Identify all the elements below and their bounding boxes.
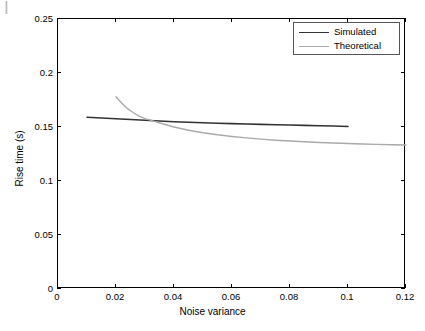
y-tick-label: 0.25 [35, 13, 54, 24]
x-tick-label: 0.04 [164, 291, 183, 302]
x-tick-label: 0 [54, 291, 59, 302]
legend-item-simulated[interactable]: Simulated [294, 25, 399, 39]
y-tick-mark-right [401, 18, 405, 19]
x-axis-title: Noise variance [0, 306, 425, 317]
legend-line-swatch-theoretical [299, 46, 329, 47]
x-tick-label: 0.12 [396, 291, 415, 302]
y-tick-mark-right [401, 126, 405, 127]
chart-legend[interactable]: Simulated Theoretical [293, 22, 400, 55]
x-tick-mark [289, 284, 290, 288]
y-tick-mark [57, 18, 61, 19]
y-tick-label: 0.15 [35, 121, 54, 132]
legend-label-simulated: Simulated [334, 27, 376, 37]
x-tick-mark-top [289, 18, 290, 22]
y-tick-mark [57, 288, 61, 289]
x-tick-mark-top [173, 18, 174, 22]
x-tick-label: 0.1 [340, 291, 353, 302]
x-tick-mark [405, 284, 406, 288]
y-tick-mark-right [401, 180, 405, 181]
y-tick-label: 0.1 [40, 175, 53, 186]
x-tick-mark [231, 284, 232, 288]
y-tick-mark [57, 234, 61, 235]
x-tick-mark [173, 284, 174, 288]
y-tick-mark [57, 72, 61, 73]
y-axis-title: Rise time (s) [14, 99, 25, 219]
series-lines [58, 19, 406, 289]
y-tick-label: 0.2 [40, 67, 53, 78]
plot-area [57, 18, 405, 288]
y-tick-mark-right [401, 72, 405, 73]
x-tick-label: 0.08 [280, 291, 299, 302]
x-tick-mark-top [231, 18, 232, 22]
x-tick-label: 0.02 [106, 291, 125, 302]
legend-label-theoretical: Theoretical [334, 41, 381, 51]
y-tick-label: 0.05 [35, 229, 54, 240]
y-tick-mark [57, 180, 61, 181]
series-line-simulated [87, 117, 348, 126]
y-tick-mark-right [401, 288, 405, 289]
corner-speck-icon [5, 1, 8, 14]
y-tick-mark [57, 126, 61, 127]
y-tick-mark-right [401, 234, 405, 235]
x-tick-mark-top [115, 18, 116, 22]
y-tick-label: 0 [48, 283, 53, 294]
x-tick-mark [347, 284, 348, 288]
chart-figure: 00.020.040.060.080.10.12 00.050.10.150.2… [0, 0, 425, 331]
x-tick-mark-top [405, 18, 406, 22]
legend-item-theoretical[interactable]: Theoretical [294, 39, 399, 53]
legend-line-swatch-simulated [299, 32, 329, 33]
x-tick-label: 0.06 [222, 291, 241, 302]
x-tick-mark [115, 284, 116, 288]
